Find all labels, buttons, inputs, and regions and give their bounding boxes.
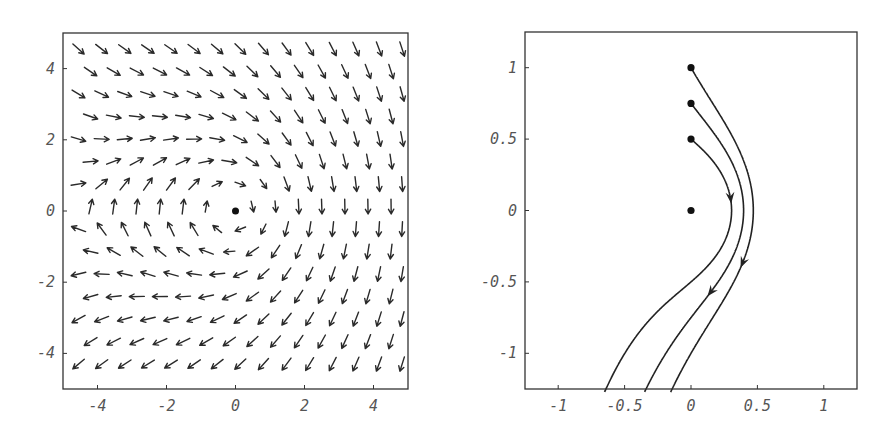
field-arrow (282, 268, 291, 280)
field-arrow (117, 136, 132, 141)
field-arrow (153, 158, 166, 165)
field-arrow (247, 337, 258, 347)
field-arrow (72, 90, 85, 98)
field-arrow (389, 109, 394, 124)
field-arrow (200, 338, 213, 346)
field-arrow (141, 271, 155, 277)
field-arrow (318, 335, 325, 348)
field-arrow (319, 154, 325, 168)
field-arrow (308, 177, 313, 192)
field-arrow (330, 132, 336, 146)
y-tick-label: -0.5 (481, 273, 517, 291)
field-arrow (97, 223, 106, 235)
field-arrow (250, 201, 255, 212)
field-arrow (376, 312, 382, 326)
field-arrow (168, 222, 175, 236)
field-arrow (223, 67, 235, 76)
field-arrow (234, 136, 248, 143)
initial-point (687, 207, 694, 214)
field-arrow (376, 42, 382, 56)
field-arrow (258, 134, 269, 144)
field-arrow (234, 271, 248, 278)
field-arrow (71, 272, 86, 277)
initial-point (687, 64, 694, 71)
field-arrow (353, 312, 359, 326)
field-arrow (365, 199, 370, 214)
field-arrow (400, 87, 405, 102)
field-arrow (365, 335, 371, 349)
x-tick-label: 2 (300, 397, 309, 415)
field-arrow (246, 247, 258, 256)
field-arrow (319, 199, 324, 214)
field-arrow (142, 45, 154, 54)
y-tick-label: 1 (508, 59, 517, 77)
field-arrow (199, 114, 213, 119)
field-arrow (95, 91, 109, 98)
figure: -4-2024 -4-2024 -1-0.500.51 -1-0.500.51 (0, 0, 884, 431)
field-arrow (271, 111, 281, 122)
field-arrow (306, 43, 314, 56)
y-tick-label: -1 (499, 344, 517, 362)
field-arrow (177, 68, 190, 75)
field-arrow (295, 245, 301, 259)
field-arrow (83, 248, 98, 253)
trajectory-curve (605, 139, 732, 392)
field-arrow (141, 136, 156, 141)
field-arrow (258, 314, 269, 324)
field-arrow (72, 315, 85, 322)
field-arrow (282, 358, 291, 370)
field-arrow (152, 294, 167, 299)
field-arrow (164, 136, 179, 141)
field-arrow (306, 313, 314, 326)
field-arrow (388, 334, 394, 348)
field-arrow (306, 132, 313, 145)
field-arrow (94, 271, 109, 276)
field-arrow (89, 199, 94, 214)
field-arrow (399, 357, 405, 371)
field-arrow (377, 132, 382, 147)
field-arrow (376, 357, 382, 371)
field-arrow (121, 222, 128, 235)
field-arrow (167, 178, 176, 190)
x-tick-label: -1 (549, 397, 567, 415)
field-arrow (365, 289, 370, 303)
field-arrow (282, 43, 291, 55)
field-arrow (83, 295, 97, 300)
field-arrow (144, 222, 151, 236)
field-arrow (296, 199, 301, 214)
field-arrow (106, 294, 121, 299)
x-tick-label: 0 (231, 397, 240, 415)
field-arrow (307, 222, 312, 237)
y-tick-label: 0 (46, 202, 55, 220)
x-tick-label: 4 (369, 397, 378, 415)
field-arrow (353, 222, 358, 237)
y-tick-label: 0 (508, 202, 517, 220)
field-arrow (119, 360, 132, 368)
field-arrow (144, 178, 153, 190)
field-arrow (187, 91, 201, 97)
field-arrow (176, 294, 191, 299)
field-arrow (181, 199, 186, 214)
field-arrow (141, 92, 155, 98)
field-arrow (72, 226, 86, 232)
field-arrow (210, 316, 224, 323)
field-arrow (271, 336, 281, 347)
field-arrow (117, 271, 132, 276)
field-arrow (164, 271, 178, 276)
field-arrow (224, 249, 235, 254)
field-arrow (234, 315, 246, 323)
field-arrow (120, 178, 129, 190)
right-y-axis-ticks: -1-0.500.51 (481, 59, 529, 363)
field-arrow (107, 158, 121, 164)
field-arrow (258, 359, 268, 370)
field-arrow (366, 154, 371, 169)
field-arrow (389, 199, 394, 214)
field-arrow (294, 335, 303, 347)
x-tick-label: -0.5 (607, 397, 643, 415)
field-arrow (118, 317, 133, 322)
field-arrow (353, 87, 359, 101)
field-arrow (342, 290, 348, 304)
field-arrow (330, 222, 335, 237)
y-tick-label: 2 (46, 131, 55, 149)
field-arrow (235, 44, 246, 55)
